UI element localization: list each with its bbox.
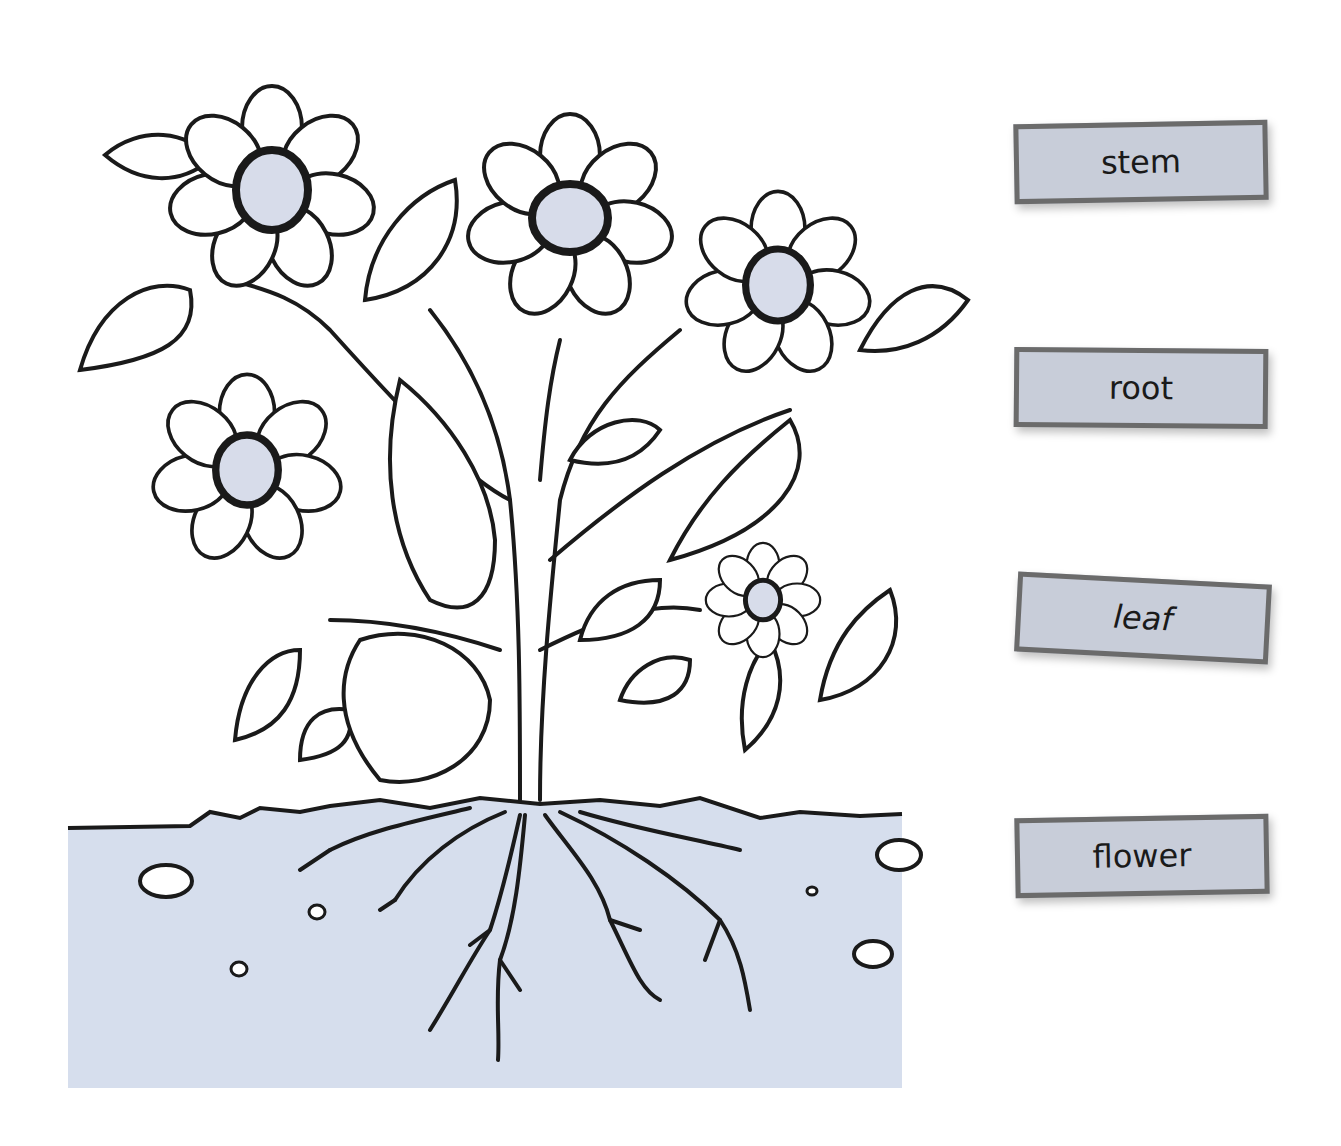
flower-small-right [706,543,820,657]
label-text-leaf: leaf [1112,597,1173,638]
label-text-flower: flower [1092,836,1191,876]
label-text-stem: stem [1101,142,1182,181]
label-card-leaf[interactable]: leaf [1014,571,1272,664]
plant-illustration [0,0,1000,1146]
soil [68,798,921,1088]
label-text-root: root [1109,369,1173,408]
label-card-stem[interactable]: stem [1013,120,1268,204]
flower-middle-left [148,374,347,568]
flower-top-left [164,86,380,297]
flower-top-right [681,191,876,381]
label-card-root[interactable]: root [1014,347,1269,429]
label-card-flower[interactable]: flower [1014,814,1269,898]
flower-top-center [462,114,678,325]
